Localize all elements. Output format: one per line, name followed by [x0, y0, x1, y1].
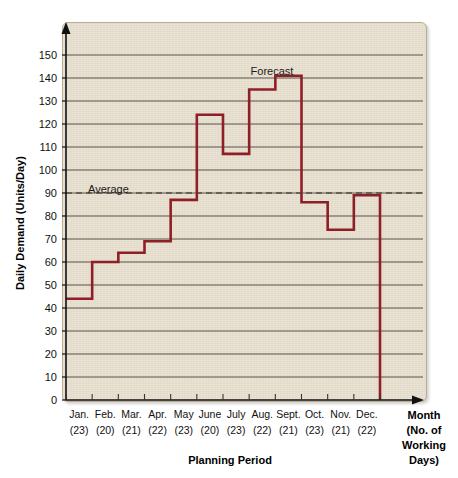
x-tick-workingdays-label: (22) — [358, 424, 377, 436]
y-tick-label: 60 — [45, 256, 57, 268]
x-tick-workingdays-label: (22) — [148, 424, 167, 436]
y-axis-tick-labels: 0102030405060708090100110120130140150 — [39, 49, 66, 406]
x-tick-month-label: July — [227, 408, 246, 420]
x-tick-workingdays-label: (21) — [122, 424, 141, 436]
x-tick-month-label: Nov. — [330, 408, 351, 420]
y-axis-title: Daily Demand (Units/Day) — [14, 156, 26, 290]
x-tick-workingdays-label: (20) — [201, 424, 220, 436]
y-tick-label: 100 — [39, 164, 57, 176]
x-tick-workingdays-label: (22) — [253, 424, 272, 436]
right-axis-label-line: (No. of — [407, 424, 442, 436]
chart-svg: 0102030405060708090100110120130140150 Ja… — [0, 0, 458, 478]
x-tick-month-label: June — [199, 408, 222, 420]
x-tick-workingdays-label: (23) — [305, 424, 324, 436]
x-tick-month-label: Mar. — [121, 408, 141, 420]
x-tick-month-label: Sept. — [276, 408, 301, 420]
forecast-annotation: Forecast — [251, 65, 294, 77]
y-tick-label: 0 — [51, 394, 57, 406]
x-axis-ticks — [66, 394, 380, 400]
x-tick-month-label: May — [174, 408, 195, 420]
y-tick-label: 80 — [45, 210, 57, 222]
x-tick-month-label: Feb. — [95, 408, 116, 420]
right-axis-label-line: Working — [402, 439, 446, 451]
right-axis-label-line: Days) — [409, 454, 439, 466]
y-axis — [62, 22, 71, 400]
y-tick-label: 120 — [39, 118, 57, 130]
right-axis-label-line: Month — [408, 409, 441, 421]
right-axis-label: Month(No. ofWorkingDays) — [402, 409, 446, 466]
x-tick-month-label: Dec. — [356, 408, 378, 420]
x-tick-month-label: Oct. — [305, 408, 324, 420]
x-tick-workingdays-label: (21) — [331, 424, 350, 436]
y-tick-label: 40 — [45, 302, 57, 314]
y-tick-label: 150 — [39, 49, 57, 61]
x-axis-title: Planning Period — [188, 454, 272, 466]
y-tick-label: 50 — [45, 279, 57, 291]
chart-figure: 0102030405060708090100110120130140150 Ja… — [0, 0, 458, 478]
x-tick-workingdays-label: (23) — [174, 424, 193, 436]
y-tick-label: 70 — [45, 233, 57, 245]
x-tick-workingdays-label: (23) — [227, 424, 246, 436]
y-tick-label: 30 — [45, 325, 57, 337]
x-tick-month-label: Jan. — [69, 408, 89, 420]
x-tick-workingdays-label: (23) — [70, 424, 89, 436]
x-tick-month-label: Apr. — [148, 408, 167, 420]
y-tick-label: 130 — [39, 95, 57, 107]
gridlines-group — [66, 55, 423, 377]
x-tick-month-label: Aug. — [251, 408, 273, 420]
y-tick-label: 10 — [45, 371, 57, 383]
x-axis-tick-labels: Jan.(23)Feb.(20)Mar.(21)Apr.(22)May(23)J… — [69, 408, 378, 436]
y-tick-label: 90 — [45, 187, 57, 199]
y-tick-label: 140 — [39, 72, 57, 84]
x-tick-workingdays-label: (20) — [96, 424, 115, 436]
y-tick-label: 20 — [45, 348, 57, 360]
average-annotation: Average — [88, 183, 129, 195]
x-axis — [66, 396, 424, 405]
x-tick-workingdays-label: (21) — [279, 424, 298, 436]
y-tick-label: 110 — [39, 141, 57, 153]
